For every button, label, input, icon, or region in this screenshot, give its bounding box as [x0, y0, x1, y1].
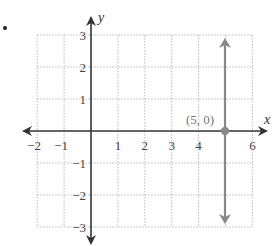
- coordinate-plane: (5, 0) x y −2−112346 321−1−2−3: [0, 0, 275, 246]
- y-tick-label: −1: [72, 156, 86, 171]
- x-tick-label: 4: [195, 138, 202, 153]
- x-tick-label: 1: [115, 138, 122, 153]
- point-5-0: [221, 127, 229, 135]
- x-tick-label: 3: [168, 138, 175, 153]
- y-axis-label: y: [96, 10, 105, 25]
- y-tick-label: 2: [80, 60, 87, 75]
- point-label: (5, 0): [186, 112, 214, 127]
- x-tick-labels: −2−112346: [27, 138, 256, 153]
- x-tick-label: −2: [27, 138, 41, 153]
- y-tick-label: 1: [80, 92, 87, 107]
- y-tick-label: −2: [72, 188, 86, 203]
- y-tick-label: −3: [72, 220, 86, 235]
- x-tick-label: 2: [142, 138, 149, 153]
- x-tick-label: −1: [54, 138, 68, 153]
- y-tick-label: 3: [80, 28, 87, 43]
- x-axis-label: x: [263, 112, 271, 127]
- x-tick-label: 6: [249, 138, 256, 153]
